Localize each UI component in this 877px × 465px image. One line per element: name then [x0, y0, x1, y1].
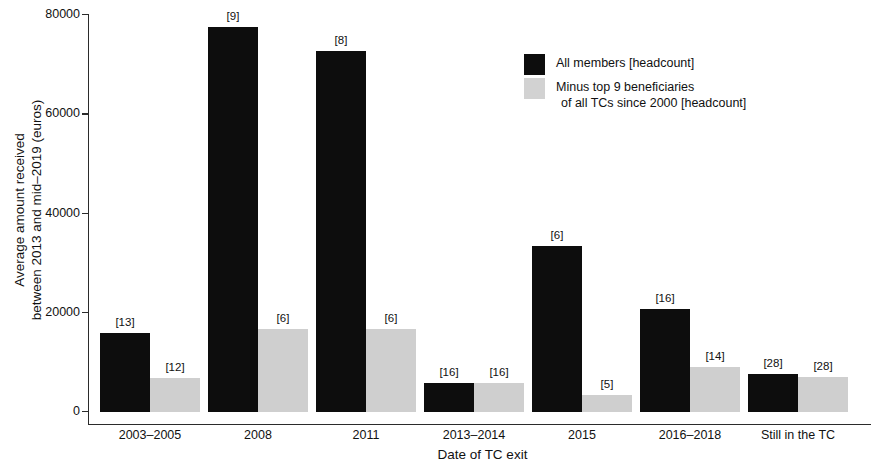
bar-value-label: [9]: [227, 10, 240, 22]
legend-label: Minus top 9 beneficiariesof all TCs sinc…: [556, 78, 746, 111]
x-axis-label: Date of TC exit: [88, 447, 877, 462]
x-axis-line: [88, 424, 871, 425]
bar-value-label: [6]: [277, 312, 290, 324]
x-axis-tick-label: 2011: [353, 428, 380, 442]
bar-value-label: [8]: [335, 34, 348, 46]
bar: [366, 329, 416, 412]
bar-value-label: [6]: [551, 229, 564, 241]
x-axis-tick-label: 2015: [568, 428, 596, 442]
x-axis-origin-tick: [88, 412, 89, 425]
bar: [424, 383, 474, 412]
y-axis-tick: [82, 113, 88, 114]
legend-swatch-gray: [524, 78, 545, 99]
x-axis-tick-label: Still in the TC: [761, 428, 835, 442]
y-axis-tick-labels: 020000400006000080000: [0, 0, 80, 465]
chart-legend: All members [headcount]Minus top 9 benef…: [524, 54, 824, 114]
bar: [748, 374, 798, 412]
bar-value-label: [5]: [601, 378, 614, 390]
legend-label-main: Minus top 9 beneficiaries: [556, 80, 694, 94]
x-axis-tick-label: 2008: [244, 428, 272, 442]
bar: [690, 367, 740, 412]
bar: [640, 309, 690, 412]
x-axis-tick-labels: 2003–2005200820112013–201420152016–2018S…: [88, 428, 877, 448]
y-axis-tick-label: 60000: [4, 106, 80, 120]
legend-swatch-black: [524, 54, 545, 75]
bar: [798, 377, 848, 412]
bar-chart-figure: Average amount received between 2013 and…: [0, 0, 877, 465]
y-axis-tick: [82, 14, 88, 15]
y-axis-tick-label: 0: [4, 404, 80, 418]
legend-label-sub: of all TCs since 2000 [headcount]: [556, 96, 746, 112]
x-axis-tick-label: 2003–2005: [119, 428, 182, 442]
bar: [474, 383, 524, 412]
y-axis-tick-label: 80000: [4, 7, 80, 21]
bar: [582, 395, 632, 412]
x-axis-tick-label: 2013–2014: [443, 428, 506, 442]
bar-value-label: [16]: [439, 366, 458, 378]
y-axis-tick-label: 20000: [4, 305, 80, 319]
bar: [150, 378, 200, 412]
bar-value-label: [16]: [655, 292, 674, 304]
y-axis-tick: [82, 213, 88, 214]
bar: [532, 246, 582, 412]
x-axis-tick-label: 2016–2018: [659, 428, 722, 442]
bar-value-label: [28]: [763, 357, 782, 369]
bar-value-label: [12]: [165, 361, 184, 373]
bar-value-label: [14]: [705, 350, 724, 362]
legend-label: All members [headcount]: [556, 54, 694, 72]
bar: [208, 27, 258, 412]
bar-value-label: [28]: [813, 360, 832, 372]
legend-item: Minus top 9 beneficiariesof all TCs sinc…: [524, 78, 824, 111]
legend-item: All members [headcount]: [524, 54, 824, 75]
bar: [316, 51, 366, 412]
bar-value-label: [6]: [385, 312, 398, 324]
bar: [100, 333, 150, 412]
bar-value-label: [16]: [489, 366, 508, 378]
y-axis-tick: [82, 312, 88, 313]
bar-value-label: [13]: [115, 316, 134, 328]
legend-label-main: All members [headcount]: [556, 56, 694, 70]
y-axis-tick: [82, 411, 88, 412]
bar: [258, 329, 308, 412]
y-axis-tick-label: 40000: [4, 206, 80, 220]
